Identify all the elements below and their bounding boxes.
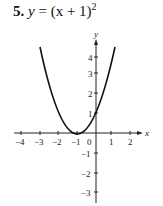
parabola-curve	[40, 47, 115, 134]
x-tick-label: −3	[34, 137, 44, 147]
x-tick-label: −1	[71, 137, 81, 147]
x-tick-label: 1	[109, 137, 114, 147]
y-tick-label: −2	[81, 169, 91, 179]
x-tick-label: 2	[128, 137, 133, 147]
x-axis-label: x	[144, 128, 149, 138]
y-tick-label: 3	[88, 69, 93, 79]
x-axis-arrow-icon	[137, 131, 143, 135]
y-tick-label: 2	[88, 89, 93, 99]
y-axis-label: y	[93, 29, 98, 39]
x-tick-label: 0	[87, 137, 92, 147]
x-tick-label: −4	[15, 137, 25, 147]
y-axis-arrow-icon	[94, 39, 98, 45]
y-tick-label: −3	[81, 188, 91, 198]
y-tick-label: 1	[88, 109, 93, 119]
graph: x y −4 −3 −2 −1 0 1 2 1 2 3 4 −1 −2 −3	[0, 0, 163, 206]
y-tick-label: 4	[88, 53, 93, 63]
y-tick-label: −1	[81, 149, 91, 159]
x-tick-label: −2	[52, 137, 62, 147]
